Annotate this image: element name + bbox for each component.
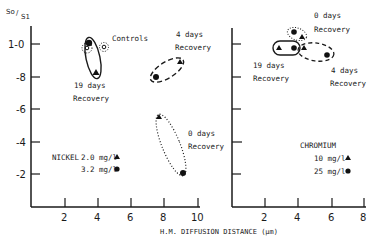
label-0-days-recovery: Recovery <box>188 142 225 151</box>
x-tick-6: 6 <box>127 212 133 223</box>
x-tick-2: 2 <box>261 212 267 223</box>
circle-marker <box>291 29 297 35</box>
label-19-days-recovery: Recovery <box>253 74 290 83</box>
x-tick-4: 4 <box>94 212 100 223</box>
nickel-4-days-group <box>147 53 188 87</box>
y-tick-1.0: 1-0 <box>8 39 24 50</box>
nickel-legend: NICKEL 2.0 mg/l 3.2 mg/l <box>52 153 120 174</box>
circle-marker <box>180 170 186 176</box>
legend-nickel-2.0: 2.0 mg/l <box>81 153 117 162</box>
label-19-days-recovery: Recovery <box>73 94 110 103</box>
chromium-legend: CHROMIUM 10 mg/l 25 mg/l <box>300 141 351 176</box>
circle-marker <box>291 45 297 51</box>
y-axis-label-denominator: S1 <box>21 13 30 21</box>
label-controls: Controls <box>112 34 148 43</box>
chromium-panel <box>232 28 366 207</box>
circle-marker <box>324 52 330 58</box>
y-tick-0.6: -6 <box>16 104 26 115</box>
triangle-marker <box>93 69 100 75</box>
y-axis-label-slash: / <box>16 9 19 17</box>
nickel-19-days-group <box>82 36 104 80</box>
x-tick-10: 10 <box>191 212 204 223</box>
x-tick-8: 8 <box>160 212 166 223</box>
label-19-days: 19 days <box>253 61 285 70</box>
legend-title-nickel: NICKEL <box>52 153 80 162</box>
label-4-days-recovery: Recovery <box>330 79 367 88</box>
circle-marker <box>345 168 350 173</box>
triangle-marker <box>276 45 282 50</box>
x-tick-2: 2 <box>61 212 67 223</box>
y-tick-0.8: -8 <box>16 72 26 83</box>
legend-nickel-3.2: 3.2 mg/l <box>81 165 117 174</box>
nickel-0-days-group <box>150 111 191 179</box>
label-4-days: 4 days <box>331 66 358 75</box>
nickel-panel: So / S1 <box>6 8 200 207</box>
triangle-marker <box>301 45 307 50</box>
x-tick-6: 6 <box>328 212 334 223</box>
circle-marker <box>153 74 159 80</box>
chromium-19-days-group <box>273 41 300 55</box>
label-4-days-recovery: Recovery <box>175 43 212 52</box>
y-axis-label-numerator: So <box>6 8 15 16</box>
y-tick-0.4: -4 <box>16 137 26 148</box>
x-tick-4: 4 <box>294 212 300 223</box>
chromium-4-days-group <box>297 41 335 64</box>
triangle-marker <box>177 59 183 64</box>
legend-chromium-10: 10 mg/l <box>314 154 346 163</box>
triangle-marker <box>345 155 351 160</box>
legend-title-chromium: CHROMIUM <box>300 141 337 150</box>
y-tick-0.2: -2 <box>16 169 26 180</box>
triangle-marker <box>156 114 162 119</box>
x-tick-8: 8 <box>360 212 366 223</box>
legend-chromium-25: 25 mg/l <box>314 167 346 176</box>
triangle-marker <box>299 34 305 39</box>
label-0-days-recovery: Recovery <box>314 25 351 34</box>
label-0-days: 0 days <box>314 11 341 20</box>
label-19-days: 19 days <box>74 81 106 90</box>
x-axis-label: H.M. DIFFUSION DISTANCE (µm) <box>160 228 278 236</box>
chart-figure: So / S1 1-0 -8 -6 -4 -2 2 4 6 8 10 <box>0 0 377 242</box>
label-4-days: 4 days <box>176 30 203 39</box>
circle-marker <box>114 166 119 171</box>
label-0-days: 0 days <box>188 129 215 138</box>
